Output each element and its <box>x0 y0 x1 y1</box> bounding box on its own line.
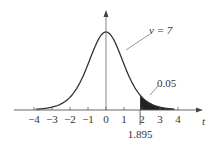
df-label: v = 7 <box>149 24 173 36</box>
y-axis-arrow-icon <box>104 10 109 17</box>
critical-value-label: 1.895 <box>128 128 153 140</box>
density-curve <box>36 32 175 109</box>
x-tick-label: 1 <box>121 113 127 125</box>
area-label: 0.05 <box>157 77 177 89</box>
x-tick-label: 4 <box>175 113 181 125</box>
x-tick-label: −3 <box>46 113 58 125</box>
x-tick-label: 0 <box>103 113 109 125</box>
x-axis-arrow-icon <box>196 108 203 113</box>
shaded-tail-area <box>140 95 174 110</box>
x-tick-label: −4 <box>28 113 40 125</box>
x-tick-label: −1 <box>82 113 94 125</box>
x-axis-label: t <box>202 115 206 127</box>
t-distribution-chart: −4−3−2−101234 1.895 v = 7 0.05 t <box>0 0 216 149</box>
df-leader-line <box>126 34 150 50</box>
x-tick-label: −2 <box>64 113 76 125</box>
x-tick-label: 3 <box>157 113 163 125</box>
